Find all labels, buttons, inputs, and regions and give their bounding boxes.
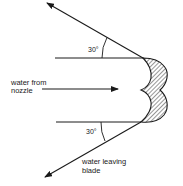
blade-diagram: 30° water from nozzle 30° water leaving … — [0, 0, 183, 186]
inlet-label-line2: nozzle — [11, 86, 33, 95]
outlet-label-line2: blade — [82, 166, 100, 175]
blade — [141, 58, 167, 122]
outlet-label-line1: water leaving — [81, 157, 126, 166]
top-angle-label: 30° — [88, 46, 99, 53]
bottom-angle-arc — [101, 122, 105, 141]
top-angle-arc — [102, 38, 107, 59]
bottom-angle-label: 30° — [86, 128, 97, 135]
